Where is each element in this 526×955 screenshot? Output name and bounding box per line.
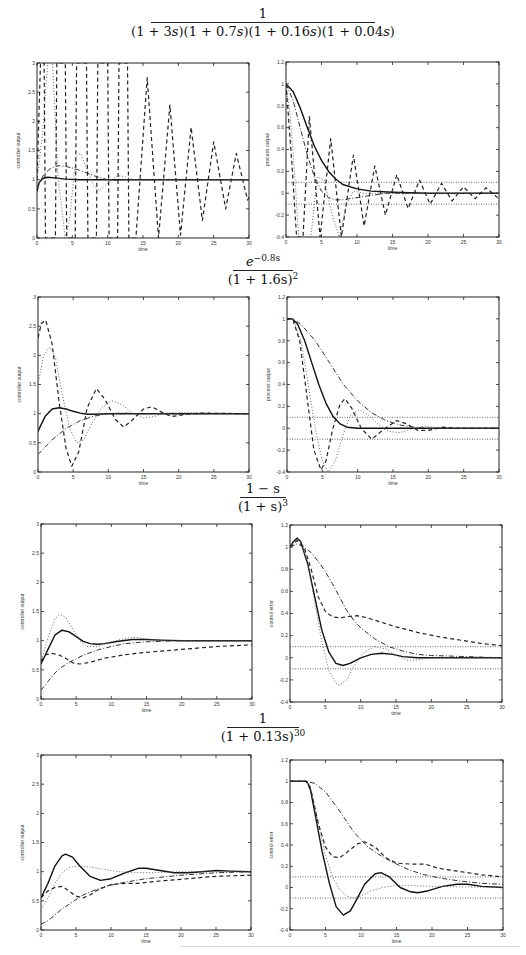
y-axis-label: controller output — [19, 824, 25, 860]
x-axis-label: time — [142, 707, 152, 713]
x-tick-label: 0 — [285, 239, 288, 245]
y-tick-label: 0.8 — [281, 566, 288, 572]
subplot-7: 05101520253000.511.522.53timecontroller … — [19, 752, 254, 944]
y-tick-label: -0.4 — [276, 469, 285, 475]
y-tick-label: 1.5 — [28, 147, 35, 153]
y-axis-label: controller output — [16, 366, 22, 402]
y-tick-label: 0 — [32, 235, 35, 241]
subplot-2: 051015202530-0.4-0.200.20.40.60.811.2tim… — [264, 59, 502, 251]
y-tick-label: 0.2 — [281, 632, 288, 638]
plot-frame — [290, 760, 503, 930]
x-tick-label: 10 — [358, 932, 364, 938]
x-tick-label: 5 — [321, 474, 324, 480]
y-tick-label: 1.2 — [281, 757, 288, 763]
y-tick-label: -0.4 — [275, 234, 284, 240]
y-tick-label: 0 — [285, 655, 288, 661]
y-tick-label: 0.8 — [277, 103, 284, 109]
y-tick-label: 0.6 — [278, 359, 285, 365]
x-tick-label: 0 — [286, 474, 289, 480]
y-tick-label: 3 — [36, 521, 39, 527]
x-tick-label: 30 — [246, 474, 252, 480]
y-tick-label: 1 — [33, 410, 36, 416]
y-tick-label: 0.6 — [277, 124, 284, 130]
y-tick-label: 0.5 — [29, 440, 36, 446]
y-tick-label: 0.4 — [281, 842, 288, 848]
y-tick-label: 0 — [282, 425, 285, 431]
x-tick-label: 25 — [211, 240, 217, 246]
x-axis-label: time — [392, 938, 402, 944]
y-tick-label: 1 — [36, 868, 39, 874]
y-axis-label: controller output — [15, 132, 21, 168]
y-tick-label: 1 — [36, 637, 39, 643]
y-tick-label: 1 — [285, 544, 288, 550]
x-tick-label: 20 — [425, 239, 431, 245]
x-tick-label: 10 — [355, 474, 361, 480]
x-tick-label: 30 — [246, 240, 252, 246]
plot-frame — [41, 755, 251, 930]
x-tick-label: 10 — [358, 704, 364, 710]
y-axis-label: process output — [264, 132, 270, 165]
y-tick-label: 1 — [32, 176, 35, 182]
plot-frame — [290, 525, 502, 702]
y-tick-label: -0.2 — [275, 212, 284, 218]
y-tick-label: 0.6 — [281, 588, 288, 594]
y-axis-label: control error — [268, 831, 274, 858]
y-tick-label: 0.2 — [278, 403, 285, 409]
y-tick-label: -0.2 — [279, 677, 288, 683]
x-tick-label: 25 — [461, 239, 467, 245]
x-tick-label: 0 — [36, 240, 39, 246]
x-tick-label: 20 — [429, 932, 435, 938]
y-tick-label: 2.5 — [32, 781, 39, 787]
y-tick-label: 2.5 — [29, 323, 36, 329]
x-axis-label: time — [141, 938, 151, 944]
step-response-plots: 05101520253000.511.522.53timecontroller … — [0, 0, 526, 955]
x-tick-label: 10 — [108, 932, 114, 938]
y-tick-label: 0.2 — [281, 863, 288, 869]
subplot-5: 05101520253000.511.522.53timecontroller … — [19, 521, 255, 713]
y-tick-label: 1.2 — [277, 59, 284, 65]
page-edge-artifact — [180, 946, 520, 947]
y-axis-label: controller output — [19, 593, 25, 629]
y-tick-label: 2.5 — [28, 89, 35, 95]
y-tick-label: 0.5 — [32, 667, 39, 673]
x-tick-label: 0 — [37, 474, 40, 480]
x-tick-label: 30 — [500, 932, 506, 938]
x-tick-label: 5 — [320, 239, 323, 245]
x-tick-label: 25 — [214, 701, 220, 707]
subplot-3: 05101520253000.511.522.53timecontroller … — [16, 294, 252, 486]
x-axis-label: time — [138, 246, 148, 252]
y-tick-label: 3 — [36, 752, 39, 758]
subplot-6: 051015202530-0.4-0.200.20.40.60.811.2tim… — [268, 522, 505, 716]
y-tick-label: -0.4 — [279, 927, 288, 933]
x-tick-label: 5 — [72, 474, 75, 480]
y-tick-label: -0.2 — [276, 447, 285, 453]
y-tick-label: 1.5 — [32, 608, 39, 614]
y-tick-label: 0.4 — [277, 146, 284, 152]
y-tick-label: 0 — [33, 469, 36, 475]
y-tick-label: 0.4 — [281, 610, 288, 616]
subplot-1: 05101520253000.511.522.53timecontroller … — [15, 60, 252, 252]
y-tick-label: 2 — [32, 118, 35, 124]
y-tick-label: 2 — [36, 579, 39, 585]
y-tick-label: 3 — [33, 294, 36, 300]
plot-frame — [37, 63, 249, 238]
x-tick-label: 25 — [213, 932, 219, 938]
x-tick-label: 20 — [426, 474, 432, 480]
y-tick-label: 0.4 — [278, 381, 285, 387]
x-tick-label: 30 — [499, 704, 505, 710]
x-tick-label: 20 — [179, 701, 185, 707]
y-tick-label: 2 — [33, 352, 36, 358]
x-axis-label: time — [388, 480, 398, 486]
x-axis-label: time — [139, 480, 149, 486]
x-tick-label: 25 — [465, 932, 471, 938]
x-tick-label: 10 — [106, 474, 112, 480]
x-tick-label: 5 — [324, 932, 327, 938]
x-tick-label: 20 — [176, 240, 182, 246]
x-tick-label: 20 — [429, 704, 435, 710]
y-tick-label: 1.5 — [32, 839, 39, 845]
x-tick-label: 30 — [248, 932, 254, 938]
y-tick-label: 0.5 — [28, 206, 35, 212]
y-axis-label: control error — [268, 600, 274, 627]
y-tick-label: 1.2 — [278, 294, 285, 300]
y-tick-label: 2.5 — [32, 550, 39, 556]
